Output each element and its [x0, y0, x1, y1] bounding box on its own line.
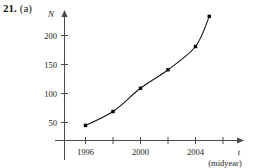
y-tick-label-100: 100: [44, 89, 57, 99]
x-axis-unit-label: (midyear): [208, 158, 242, 168]
y-axis-tick-labels: 50 100 150 200: [44, 31, 57, 128]
data-point: [194, 45, 197, 48]
x-tick-label-1996: 1996: [77, 147, 94, 157]
x-axis-label: t: [238, 147, 241, 157]
data-point: [139, 87, 142, 90]
y-tick-label-50: 50: [49, 118, 58, 128]
data-point: [166, 68, 169, 71]
y-tick-label-200: 200: [44, 31, 57, 41]
x-axis-arrow-icon: [237, 137, 244, 143]
y-axis-arrow-icon: [61, 10, 67, 17]
data-point: [208, 15, 211, 18]
x-axis-tick-labels: 1996 2000 2004: [77, 147, 205, 157]
data-point: [84, 124, 87, 127]
data-curve: [86, 16, 210, 125]
data-point: [111, 110, 114, 113]
y-tick-label-150: 150: [44, 60, 57, 70]
line-chart: 50 100 150 200 N 1996 2000 2004 t (midye…: [0, 0, 258, 168]
x-tick-label-2004: 2004: [187, 147, 205, 157]
x-tick-label-2000: 2000: [132, 147, 149, 157]
data-point-markers: [84, 15, 211, 127]
y-axis-label: N: [47, 9, 55, 19]
figure-container: 21.(a) 50 100 150 200 N: [0, 0, 258, 168]
